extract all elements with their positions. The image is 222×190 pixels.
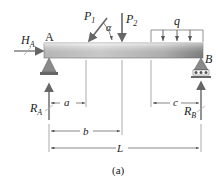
b-label: b [83, 125, 89, 137]
reaction-ra: RA [29, 84, 53, 120]
extension-lines [49, 60, 201, 152]
ra-label: RA [29, 101, 42, 117]
alpha-label: α [106, 22, 112, 33]
c-label: c [173, 96, 178, 108]
ha-label: HA [20, 33, 35, 49]
reaction-rb: RB [183, 82, 205, 120]
rb-label: RB [183, 104, 196, 120]
l-label: L [116, 142, 123, 154]
point-a-label: A [45, 30, 54, 44]
figure-caption: (a) [112, 164, 125, 177]
p2-label: P2 [125, 12, 137, 28]
q-label: q [174, 14, 180, 28]
dimension-l: L [51, 142, 199, 154]
vertical-load-p2: P2 [122, 12, 137, 41]
beam-diagram: HA A P1 α P2 q B RA RB [0, 0, 222, 190]
p1-label: P1 [83, 9, 95, 25]
pin-support-a [40, 58, 58, 75]
a-label: a [64, 96, 70, 108]
dimension-c: c [153, 96, 199, 108]
dimension-b: b [51, 125, 120, 137]
distributed-load-q: q [151, 14, 203, 42]
dimension-a: a [51, 96, 85, 108]
point-b-label: B [205, 52, 213, 66]
horizontal-reaction-ha: HA [14, 33, 43, 55]
inclined-load-p1: P1 α [83, 9, 112, 41]
beam [44, 43, 203, 58]
